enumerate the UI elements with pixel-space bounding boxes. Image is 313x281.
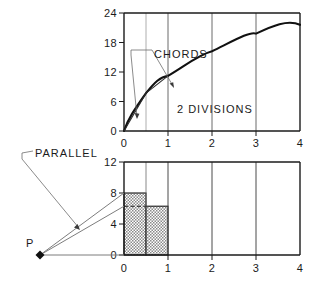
upper-chart-x-ticks <box>168 131 256 136</box>
upper-chart-y-ticks <box>119 13 124 131</box>
parallel-leader <box>22 151 79 228</box>
lower-xlabel-0: 0 <box>121 262 128 274</box>
lower-xlabel-2: 2 <box>209 262 216 274</box>
chords-leader-1 <box>131 55 137 117</box>
parallel-leader-line <box>22 159 79 228</box>
chords-label: CHORDS <box>154 48 208 60</box>
upper-xlabel-1: 1 <box>165 137 172 149</box>
pole-point-marker <box>36 251 45 260</box>
lower-xlabel-4: 4 <box>297 262 304 274</box>
upper-ylabel-24: 24 <box>104 7 117 19</box>
lower-chart-x-ticks <box>168 255 256 260</box>
bar-division-1 <box>124 193 146 255</box>
divisions-label: 2 DIVISIONS <box>177 103 253 115</box>
parallel-label: PARALLEL <box>35 147 98 159</box>
lower-xlabel-3: 3 <box>253 262 260 274</box>
lower-ylabel-12: 12 <box>104 156 117 168</box>
chords-arrow-1 <box>135 113 140 119</box>
bar-division-2 <box>146 206 168 255</box>
chords-arrow-2 <box>170 82 174 88</box>
lower-ylabel-4: 4 <box>110 218 117 230</box>
chords-leader-bracket <box>131 50 152 55</box>
pole-ray-to-6 <box>40 206 124 255</box>
engineering-figure: 24 18 12 6 0 0 1 2 3 4 <box>0 0 313 281</box>
pole-label-p: P <box>26 237 33 249</box>
upper-ylabel-6: 6 <box>110 96 117 108</box>
lower-ylabel-8: 8 <box>110 187 117 199</box>
upper-ylabel-18: 18 <box>104 37 117 49</box>
chord-segment-2 <box>146 76 168 93</box>
lower-xlabel-1: 1 <box>165 262 172 274</box>
upper-xlabel-0: 0 <box>121 137 128 149</box>
upper-ylabel-12: 12 <box>104 66 117 78</box>
figure-root: 24 18 12 6 0 0 1 2 3 4 <box>0 0 313 281</box>
parallel-leader-bracket <box>22 151 33 159</box>
lower-chart: 12 8 4 0 0 1 2 3 4 P PARALL <box>22 147 303 274</box>
upper-xlabel-4: 4 <box>297 137 304 149</box>
upper-ylabel-0: 0 <box>110 125 117 137</box>
upper-xlabel-2: 2 <box>209 137 216 149</box>
upper-xlabel-3: 3 <box>253 137 260 149</box>
upper-chart: 24 18 12 6 0 0 1 2 3 4 <box>104 7 303 149</box>
